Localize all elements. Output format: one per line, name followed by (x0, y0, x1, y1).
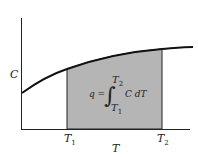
integrand: C dT (125, 89, 148, 99)
tick-t1: T1 (64, 132, 76, 147)
x-axis-label: T (112, 142, 121, 155)
tick-t2: T2 (157, 132, 169, 147)
y-axis-label: C (10, 68, 19, 81)
equation-q: q = (89, 89, 105, 99)
heat-integral-diagram: C T T1 T2 q = ∫ T2 T1 C dT (0, 0, 198, 157)
